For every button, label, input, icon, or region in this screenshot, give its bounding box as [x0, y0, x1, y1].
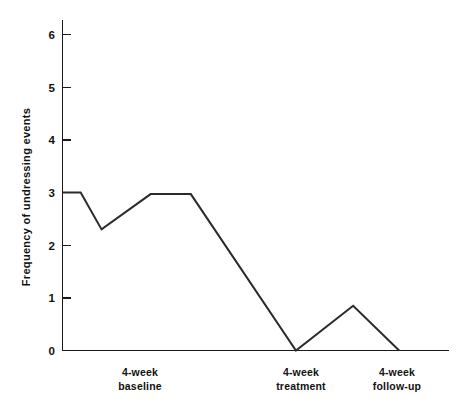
x-tick-label-baseline: 4-week baseline: [118, 366, 162, 392]
svg-text:4-week: 4-week: [283, 366, 319, 378]
data-series-group: [63, 193, 400, 351]
y-tick-label-1: 1: [49, 292, 56, 304]
y-tick-label-5: 5: [49, 82, 56, 94]
svg-text:baseline: baseline: [118, 380, 162, 392]
x-axis-tick-labels: 4-week baseline 4-week treatment 4-week …: [118, 366, 421, 392]
y-axis-tick-labels: 6 5 4 3 2 1 0: [49, 29, 56, 357]
svg-text:4-week: 4-week: [122, 366, 158, 378]
y-tick-label-6: 6: [49, 29, 55, 41]
y-tick-label-4: 4: [49, 134, 56, 146]
x-axis-group: 4-week baseline 4-week treatment 4-week …: [63, 351, 450, 393]
svg-text:follow-up: follow-up: [373, 380, 421, 392]
svg-text:treatment: treatment: [276, 380, 326, 392]
y-tick-label-0: 0: [49, 345, 55, 357]
y-tick-label-3: 3: [49, 187, 55, 199]
svg-text:4-week: 4-week: [379, 366, 415, 378]
x-tick-label-treatment: 4-week treatment: [276, 366, 326, 392]
y-axis-title: Frequency of undressing events: [20, 108, 32, 286]
y-axis-group: 6 5 4 3 2 1 0 Frequency of undressing ev…: [20, 20, 71, 357]
x-tick-label-followup: 4-week follow-up: [373, 366, 421, 392]
undressing-events-line: [63, 193, 400, 351]
y-tick-label-2: 2: [49, 240, 55, 252]
line-chart-figure: 6 5 4 3 2 1 0 Frequency of undressing ev…: [0, 0, 472, 414]
